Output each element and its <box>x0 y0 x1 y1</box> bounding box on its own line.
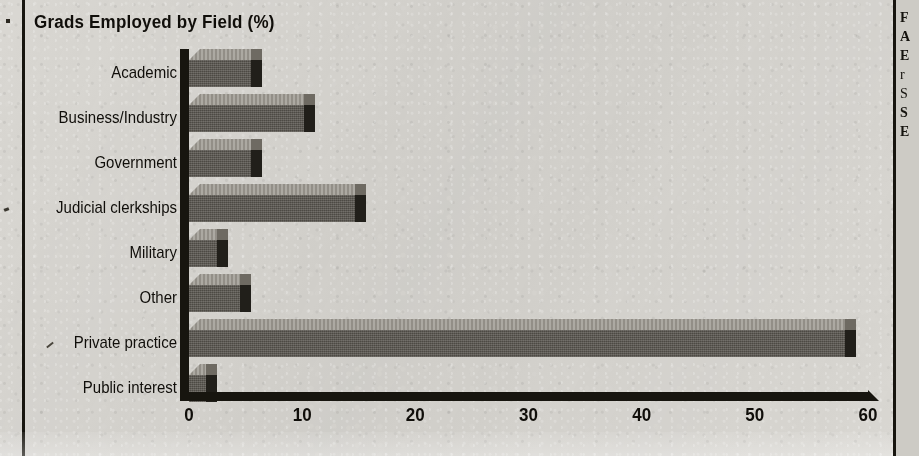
bar-front-face <box>189 150 251 177</box>
scanned-page: Grads Employed by Field (%) AcademicBusi… <box>0 0 919 456</box>
bar-top-bevel <box>206 364 217 375</box>
category-label: Private practice <box>74 332 189 351</box>
bar-academic <box>189 60 262 98</box>
bar-side-face <box>251 60 262 87</box>
bar-top-bevel <box>355 184 366 195</box>
bar-front-face <box>189 285 240 312</box>
bar-private-practice <box>189 330 856 368</box>
bar-business-industry <box>189 105 315 143</box>
category-label: Judicial clerkships <box>56 197 189 216</box>
bar-front-face <box>189 240 217 267</box>
x-tick-label: 60 <box>859 405 878 427</box>
adjacent-text-line: E <box>896 122 919 141</box>
bar-top-bevel <box>240 274 251 285</box>
adjacent-text-line: A <box>896 27 919 46</box>
x-tick-label: 10 <box>293 405 312 427</box>
y-axis-line <box>180 49 189 392</box>
bar-front-face <box>189 60 251 87</box>
bar-top-bevel <box>217 229 228 240</box>
bar-front-face <box>189 195 355 222</box>
bar-side-face <box>240 285 251 312</box>
bar-top-face <box>189 49 251 60</box>
x-tick-label: 50 <box>745 405 764 427</box>
bar-front-face <box>189 105 304 132</box>
category-label: Academic <box>111 62 189 81</box>
x-tick-label: 20 <box>406 405 425 427</box>
bar-top-bevel <box>304 94 315 105</box>
bar-judicial-clerkships <box>189 195 366 233</box>
category-label: Business/Industry <box>59 107 189 126</box>
adjacent-text-line: S <box>896 84 919 103</box>
bar-top-bevel <box>251 139 262 150</box>
category-label: Public interest <box>83 377 189 396</box>
adjacent-text-line: r <box>896 65 919 84</box>
category-label: Government <box>94 152 189 171</box>
x-tick-label: 30 <box>519 405 538 427</box>
bar-military <box>189 240 228 278</box>
bar-top-face <box>189 184 355 195</box>
bar-side-face <box>304 105 315 132</box>
bar-side-face <box>251 150 262 177</box>
bar-front-face <box>189 330 845 357</box>
bar-top-face <box>189 94 304 105</box>
bar-other <box>189 285 251 323</box>
adjacent-text-line: E <box>896 46 919 65</box>
x-tick-label: 40 <box>632 405 651 427</box>
bar-side-face <box>217 240 228 267</box>
bar-top-bevel <box>251 49 262 60</box>
bar-chart-plot-area: AcademicBusiness/IndustryGovernmentJudic… <box>0 0 919 456</box>
bar-top-bevel <box>845 319 856 330</box>
adjacent-text-line: S <box>896 103 919 122</box>
bar-government <box>189 150 262 188</box>
x-tick-label: 0 <box>184 405 193 427</box>
x-axis-arrow-cap <box>868 390 879 401</box>
adjacent-text-column: FAErSSE <box>893 0 919 456</box>
adjacent-text-line: F <box>896 8 919 27</box>
x-axis-line <box>180 392 868 401</box>
bar-side-face <box>845 330 856 357</box>
bar-top-face <box>189 319 845 330</box>
bar-side-face <box>355 195 366 222</box>
